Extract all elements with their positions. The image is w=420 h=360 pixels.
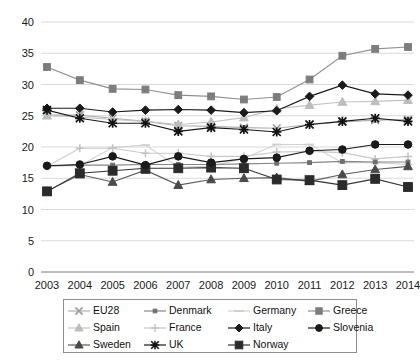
- data-point-marker: [141, 149, 149, 157]
- y-axis-tick-label: 20: [22, 141, 34, 153]
- x-axis-tick-label: 2013: [363, 279, 387, 291]
- legend-marker: [75, 340, 83, 347]
- series-italy: [43, 81, 413, 117]
- data-point-marker: [44, 64, 51, 71]
- data-point-marker: [240, 155, 248, 163]
- x-axis-tick-label: 2006: [133, 279, 157, 291]
- data-point-marker: [340, 159, 344, 163]
- data-point-marker: [306, 76, 313, 83]
- y-axis-tick-label: 25: [22, 110, 34, 122]
- data-point-marker: [207, 159, 215, 167]
- data-point-marker: [272, 175, 281, 184]
- y-axis-tick-label: 5: [28, 235, 34, 247]
- data-point-marker: [338, 97, 347, 105]
- legend-item-italy[interactable]: Italy: [228, 322, 308, 334]
- legend-marker: [235, 341, 243, 349]
- data-point-marker: [142, 161, 150, 169]
- data-point-marker: [76, 77, 83, 84]
- data-point-marker: [175, 92, 182, 99]
- chart-plot-area: 0510152025303540200320042005200620072008…: [0, 0, 420, 295]
- data-point-marker: [43, 162, 51, 170]
- legend-item-label: France: [169, 322, 202, 333]
- y-axis-tick-label: 15: [22, 172, 34, 184]
- chart-legend: EU28DenmarkGermanyGreeceSpainFranceItaly…: [63, 299, 357, 353]
- data-point-marker: [108, 119, 117, 128]
- legend-item-label: Germany: [253, 305, 296, 316]
- data-point-marker: [75, 169, 84, 178]
- legend-item-label: Greece: [333, 305, 367, 316]
- line-chart: 0510152025303540200320042005200620072008…: [0, 0, 420, 360]
- data-point-marker: [339, 146, 347, 154]
- data-point-marker: [241, 96, 248, 103]
- data-point-marker: [371, 174, 380, 183]
- x-axis-tick-label: 2008: [199, 279, 223, 291]
- legend-symbol-asterisk-icon: [144, 339, 166, 351]
- legend-marker: [151, 340, 160, 349]
- legend-symbol-small-square-icon: [144, 305, 166, 317]
- legend-item-label: Italy: [253, 322, 272, 333]
- legend-marker: [316, 307, 322, 313]
- legend-item-slovenia[interactable]: Slovenia: [308, 322, 388, 334]
- data-point-marker: [308, 161, 312, 165]
- data-point-marker: [338, 81, 347, 90]
- data-point-marker: [339, 52, 346, 59]
- data-point-marker: [305, 92, 314, 101]
- legend-item-label: Slovenia: [333, 322, 373, 333]
- data-point-marker: [43, 187, 52, 196]
- x-axis-tick-label: 2004: [68, 279, 92, 291]
- series-line: [47, 85, 408, 113]
- legend-item-uk[interactable]: UK: [144, 339, 228, 351]
- legend-item-denmark[interactable]: Denmark: [144, 305, 228, 317]
- legend-marker: [153, 309, 157, 313]
- y-axis-tick-label: 35: [22, 47, 34, 59]
- legend-item-france[interactable]: France: [144, 322, 228, 334]
- data-point-marker: [273, 94, 280, 101]
- legend-symbol-square-icon: [308, 305, 330, 317]
- series-france: [43, 144, 412, 170]
- legend-item-norway[interactable]: Norway: [228, 339, 308, 351]
- data-point-marker: [371, 90, 380, 99]
- legend-item-germany[interactable]: Germany: [228, 305, 308, 317]
- series-line: [47, 166, 408, 191]
- series-greece: [44, 44, 412, 103]
- legend-item-spain[interactable]: Spain: [68, 322, 144, 334]
- data-point-marker: [404, 91, 413, 100]
- legend-symbol-big-square-icon: [228, 339, 250, 351]
- data-point-marker: [76, 161, 84, 169]
- data-point-marker: [208, 93, 215, 100]
- data-point-marker: [174, 153, 182, 161]
- data-point-marker: [141, 106, 150, 115]
- data-point-marker: [404, 183, 413, 192]
- legend-item-label: Denmark: [169, 305, 212, 316]
- legend-item-sweden[interactable]: Sweden: [68, 339, 144, 351]
- x-axis-tick-label: 2009: [232, 279, 256, 291]
- data-point-marker: [371, 141, 379, 149]
- series-line: [47, 47, 408, 100]
- data-point-marker: [405, 44, 412, 51]
- data-point-marker: [174, 164, 183, 173]
- data-point-marker: [75, 114, 84, 123]
- legend-symbol-diamond-icon: [228, 322, 250, 334]
- series-norway: [43, 163, 413, 196]
- data-point-marker: [404, 141, 412, 149]
- data-point-marker: [371, 114, 380, 123]
- legend-item-label: Sweden: [93, 339, 131, 350]
- data-point-marker: [206, 123, 215, 132]
- legend-item-eu28[interactable]: EU28: [68, 305, 144, 317]
- legend-item-greece[interactable]: Greece: [308, 305, 388, 317]
- x-axis-tick-label: 2003: [35, 279, 59, 291]
- data-point-marker: [338, 181, 347, 190]
- data-point-marker: [174, 105, 183, 114]
- legend-symbol-triangle-icon: [68, 339, 90, 351]
- x-axis-tick-label: 2012: [330, 279, 354, 291]
- legend-item-label: Spain: [93, 322, 120, 333]
- legend-item-label: EU28: [93, 305, 119, 316]
- data-point-marker: [174, 127, 183, 136]
- data-point-marker: [240, 164, 249, 173]
- data-point-marker: [305, 176, 314, 185]
- y-axis-tick-label: 40: [22, 16, 34, 28]
- x-axis-tick-label: 2011: [298, 279, 322, 291]
- legend-item-label: UK: [169, 339, 184, 350]
- data-point-marker: [273, 154, 281, 162]
- data-point-marker: [42, 106, 51, 115]
